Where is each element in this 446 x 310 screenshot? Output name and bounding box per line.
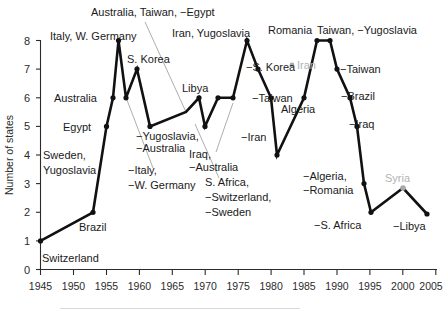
data-point-minus-safrica	[368, 210, 373, 215]
x-tick-label-1945: 1945	[29, 280, 53, 292]
data-point-taiwan-minus-yugoslavia	[327, 38, 332, 43]
y-tick-label-4: 4	[24, 149, 30, 161]
annotation-minus-sweden: −Sweden	[205, 206, 251, 218]
y-axis-title: Number of states	[3, 115, 15, 195]
annotation-minus-libya: −Libya	[393, 220, 427, 232]
annotation-australia-1956: Australia	[54, 92, 98, 104]
data-point-iraq-minus-australia	[230, 95, 235, 100]
data-point-switzerland	[38, 238, 43, 243]
annotation-brazil-1953: Brazil	[79, 221, 107, 233]
annotation-algeria: Algeria	[281, 103, 316, 115]
data-point-safrica-minus-switzerland-sweden	[202, 124, 207, 129]
y-tick-group	[36, 41, 41, 270]
data-point-brazil-1953	[90, 210, 95, 215]
data-point-1972	[215, 95, 220, 100]
data-point-libya	[196, 95, 201, 100]
y-tick-label-1: 1	[24, 235, 30, 247]
annotation-group: Italy, W. Germany Australia, Taiwan, −Eg…	[42, 6, 427, 264]
y-tick-label-5: 5	[24, 120, 30, 132]
annotation-libya: Libya	[182, 82, 209, 94]
annotation-iraq-1974: Iraq,	[189, 148, 211, 160]
x-tick-label-1955: 1955	[95, 280, 119, 292]
annotation-egypt: Egypt	[63, 121, 91, 133]
x-tick-labels: 1945 1950 1955 1960 1965 1970 1975 1980 …	[29, 280, 443, 292]
data-point-minus-yugoslavia-australia	[147, 124, 152, 129]
x-tick-label-1975: 1975	[227, 280, 251, 292]
x-tick-label-1995: 1995	[358, 280, 382, 292]
data-point-skorea-1959	[134, 67, 139, 72]
x-tick-label-1965: 1965	[161, 280, 185, 292]
annotation-minus-iran: −Iran	[241, 131, 266, 143]
annotation-minus-romania: −Romania	[303, 184, 354, 196]
y-tick-label-6: 6	[24, 92, 30, 104]
data-point-syria	[400, 185, 406, 191]
data-point-minus-italy-wgermany	[123, 95, 128, 100]
data-point-romania	[314, 38, 319, 43]
annotation-skorea-1959: S. Korea	[127, 53, 171, 65]
x-tick-label-2005: 2005	[419, 280, 443, 292]
data-point-algeria	[301, 95, 306, 100]
y-tick-label-7: 7	[24, 63, 30, 75]
annotation-taiwan-minus-yugoslavia: Taiwan, −Yugoslavia	[317, 24, 418, 36]
annotation-minus-italy: −Italy,	[128, 164, 157, 176]
annotation-sweden: Sweden,	[43, 149, 86, 161]
annotation-minus-algeria: −Algeria,	[303, 170, 347, 182]
y-tick-labels: 8 7 6 5 4 3 2 1 0	[24, 35, 30, 276]
annotation-switzerland: Switzerland	[42, 252, 99, 264]
annotation-italy-wgermany-top: Italy, W. Germany	[50, 30, 137, 42]
annotation-minus-skorea: −S. Korea	[246, 61, 296, 73]
annotation-minus-australia-1974: −Australia	[189, 161, 239, 173]
x-tick-label-1970: 1970	[194, 280, 218, 292]
annotation-iran-gray: Iran	[297, 59, 316, 71]
data-point-minus-libya	[424, 211, 429, 216]
annotation-australia-taiwan-minus-egypt: Australia, Taiwan, −Egypt	[91, 6, 215, 18]
y-tick-label-3: 3	[24, 178, 30, 190]
y-tick-label-0: 0	[24, 264, 30, 276]
annotation-minus-iraq: −Iraq	[349, 118, 374, 130]
x-tick-label-2000: 2000	[391, 280, 415, 292]
x-tick-label-1950: 1950	[62, 280, 86, 292]
annotation-minus-safrica: −S. Africa	[314, 219, 362, 231]
x-tick-label-1990: 1990	[325, 280, 349, 292]
annotation-romania: Romania	[268, 24, 313, 36]
data-point-minus-algeria-romania	[361, 181, 366, 186]
annotation-yugoslavia-1954: Yugoslavia	[43, 164, 97, 176]
data-point-minus-taiwan-1988	[334, 67, 339, 72]
x-tick-label-1980: 1980	[259, 280, 283, 292]
leader-iraq-australia	[216, 103, 233, 152]
annotation-minus-switzerland: −Switzerland,	[205, 191, 271, 203]
annotation-minus-wgermany: −W. Germany	[128, 179, 196, 191]
chart-svg: 8 7 6 5 4 3 2 1 0 Number of states	[0, 0, 446, 310]
annotation-safrica-1970: S. Africa,	[205, 176, 249, 188]
annotation-minus-taiwan-1988: −Taiwan	[340, 63, 381, 75]
nuclear-programs-line-chart: 8 7 6 5 4 3 2 1 0 Number of states	[0, 0, 446, 310]
y-tick-label-8: 8	[24, 35, 30, 47]
annotation-minus-yugoslavia: −Yugoslavia,	[136, 130, 199, 142]
annotation-minus-australia-1962: −Australia	[136, 142, 186, 154]
x-tick-group	[41, 270, 436, 276]
data-point-egypt	[104, 124, 109, 129]
x-tick-label-1960: 1960	[128, 280, 152, 292]
annotation-syria: Syria	[385, 172, 411, 184]
x-tick-label-1985: 1985	[292, 280, 316, 292]
data-point-minus-iran	[274, 152, 279, 157]
annotation-iran-yugoslavia: Iran, Yugoslavia	[172, 27, 251, 39]
annotation-minus-brazil: −Brazil	[341, 90, 375, 102]
data-point-australia-1956	[110, 95, 115, 100]
y-tick-label-2: 2	[24, 206, 30, 218]
